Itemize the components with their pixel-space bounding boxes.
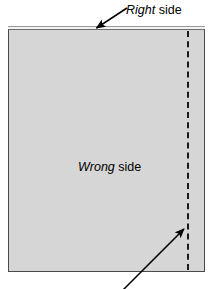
label-right-side: Right side: [126, 4, 182, 17]
top-leader-arrow: [97, 8, 128, 28]
label-right-side-emphasis: Right: [126, 3, 155, 17]
label-right-side-rest: side: [155, 3, 181, 17]
label-wrong-side-emphasis: Wrong: [78, 160, 115, 174]
fabric-diagram: Right side Wrong side: [0, 0, 214, 289]
leader-arrows-overlay: [0, 0, 214, 289]
label-wrong-side-rest: side: [115, 160, 141, 174]
bottom-leader-arrow: [123, 229, 184, 289]
label-wrong-side: Wrong side: [78, 161, 141, 174]
